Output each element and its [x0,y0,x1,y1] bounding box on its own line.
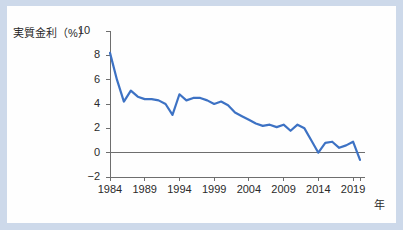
y-tick-label: 6 [78,73,100,85]
y-tick-label: 4 [78,97,100,109]
data-series-line [110,53,360,160]
line-chart-plot [0,0,403,230]
y-tick-label: 2 [78,121,100,133]
x-axis-unit-label: 年 [374,196,385,212]
y-axis-top-value: 10 [78,24,90,36]
chart-card: 実質金利（%） 1086420−2 1984198919941999200420… [0,0,403,230]
y-tick-label: −2 [78,170,100,182]
x-tick-marks [110,177,360,181]
y-tick-label: 8 [78,48,100,60]
axis-group [110,31,365,177]
y-tick-label: 0 [78,146,100,158]
x-tick-label: 2019 [333,183,373,195]
